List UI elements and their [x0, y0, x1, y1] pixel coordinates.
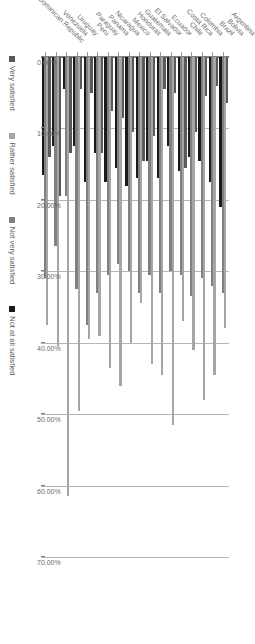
bar — [132, 57, 134, 132]
bar — [63, 57, 65, 89]
bar-group — [187, 57, 197, 557]
category-tick — [202, 52, 203, 56]
category-tick — [191, 52, 192, 56]
bar — [190, 57, 192, 296]
category-tick — [87, 52, 88, 56]
bar — [167, 57, 169, 146]
bar-group — [114, 57, 124, 557]
bar — [90, 57, 92, 93]
bar-group — [219, 57, 229, 557]
bar — [219, 57, 221, 207]
bar — [88, 57, 90, 339]
bar — [65, 57, 67, 196]
axis-tick-label: 60.00% — [37, 488, 61, 495]
legend-swatch-icon — [10, 133, 16, 139]
bar-group — [125, 57, 135, 557]
bar — [122, 57, 124, 118]
bar — [94, 57, 96, 153]
category-tick — [45, 52, 46, 56]
category-tick — [139, 52, 140, 56]
category-tick — [108, 52, 109, 56]
chart-figure: 0.00%10.00%20.00%30.00%40.00%50.00%60.00… — [0, 0, 233, 644]
legend-label: Not very satisfied — [8, 227, 17, 285]
bar-group — [145, 57, 155, 557]
axis-tick-label: 0.00% — [37, 59, 57, 66]
bar — [209, 57, 211, 182]
bar — [192, 57, 194, 350]
bar-group — [72, 57, 82, 557]
bar — [42, 57, 44, 175]
bar-group — [198, 57, 208, 557]
bar — [54, 57, 56, 246]
category-tick — [129, 52, 130, 56]
bar — [174, 57, 176, 93]
bar — [136, 57, 138, 178]
axis-tick — [41, 485, 45, 486]
category-tick — [212, 52, 213, 56]
bar — [213, 57, 215, 375]
bar — [153, 57, 155, 136]
bar-group — [156, 57, 166, 557]
bar — [211, 57, 213, 286]
bar — [195, 57, 197, 132]
category-tick — [118, 52, 119, 56]
bar — [163, 57, 165, 89]
bar — [109, 57, 111, 368]
bar — [86, 57, 88, 325]
category-tick — [77, 52, 78, 56]
bar — [73, 57, 75, 146]
bar — [140, 57, 142, 303]
bar — [146, 57, 148, 161]
bar — [115, 57, 117, 168]
bar — [198, 57, 200, 161]
bar-group — [104, 57, 114, 557]
legend-label: Very satisfied — [8, 66, 17, 111]
bar — [216, 57, 218, 86]
bar — [130, 57, 132, 343]
bar — [84, 57, 86, 182]
axis-tick-label: 50.00% — [37, 416, 61, 423]
bar — [138, 57, 140, 293]
bar — [78, 57, 80, 411]
bar — [59, 57, 61, 196]
legend-swatch-icon — [10, 306, 16, 312]
category-tick — [97, 52, 98, 56]
axis-tick-label: 10.00% — [37, 130, 61, 137]
bar — [151, 57, 153, 364]
axis-tick — [41, 342, 45, 343]
bar — [67, 57, 69, 496]
bar — [96, 57, 98, 293]
category-tick — [150, 52, 151, 56]
bar — [222, 57, 224, 293]
gridline — [41, 557, 229, 558]
legend-item[interactable]: Not very satisfied — [8, 217, 17, 285]
legend-item[interactable]: Very satisfied — [8, 56, 17, 111]
bar — [49, 57, 51, 157]
axis-tick — [41, 199, 45, 200]
legend-swatch-icon — [10, 56, 16, 62]
category-tick — [171, 52, 172, 56]
bar — [203, 57, 205, 400]
bar — [226, 57, 228, 103]
bar-group — [177, 57, 187, 557]
category-tick — [66, 52, 67, 56]
bar — [178, 57, 180, 171]
bar — [159, 57, 161, 293]
chart-legend: Very satisfiedRather satisfiedNot very s… — [8, 56, 17, 375]
bar-group — [166, 57, 176, 557]
legend-item[interactable]: Rather satisfied — [8, 133, 17, 195]
plot-area — [41, 56, 229, 557]
category-tick — [160, 52, 161, 56]
bar — [111, 57, 113, 111]
bar — [119, 57, 121, 386]
axis-tick — [41, 556, 45, 557]
category-tick — [56, 52, 57, 56]
legend-label: Rather satisfied — [8, 143, 17, 195]
bar — [205, 57, 207, 96]
legend-item[interactable]: Not at all satisfied — [8, 306, 17, 375]
rotated-page-wrapper: 0.00%10.00%20.00%30.00%40.00%50.00%60.00… — [0, 0, 233, 644]
bar-group — [62, 57, 72, 557]
axis-tick-label: 30.00% — [37, 273, 61, 280]
bar — [117, 57, 119, 264]
bar — [69, 57, 71, 153]
